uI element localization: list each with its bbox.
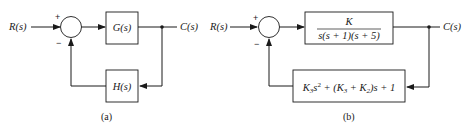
- output-label-b: C(s): [443, 21, 462, 33]
- input-label-a: R(s): [8, 21, 27, 33]
- fb-middle-plus: + K: [347, 82, 367, 93]
- fb-tail: )s + 1: [369, 82, 395, 94]
- fb-middle: + (K: [321, 82, 345, 94]
- summing-junction-a: [61, 17, 82, 38]
- input-label-b: R(s): [209, 21, 228, 33]
- caption-a: (a): [101, 111, 112, 123]
- minus-sign-a: −: [56, 38, 61, 48]
- minus-sign-b: −: [254, 39, 259, 49]
- feedback-block-label-a: H(s): [112, 81, 132, 93]
- feedback-path-right-b: [407, 27, 429, 87]
- plus-sign-b: +: [253, 13, 258, 23]
- feedback-path-left-b: [269, 39, 293, 86]
- forward-block-label-a: G(s): [113, 22, 132, 34]
- plus-sign-a: +: [55, 12, 60, 22]
- forward-numerator-b: K: [344, 16, 353, 27]
- output-label-a: C(s): [180, 21, 199, 33]
- feedback-block-label-b: K3s2 + (K3 + K2)s + 1: [302, 81, 395, 95]
- forward-denominator-b: s(s + 1)(s + 5): [318, 30, 380, 42]
- caption-b: (b): [343, 111, 355, 123]
- feedback-path-right-a: [140, 27, 162, 86]
- diagram-a: R(s) + − G(s) C(s) H(s) (a): [8, 12, 199, 123]
- feedback-path-left-a: [71, 39, 106, 86]
- summing-junction-b: [259, 17, 280, 38]
- diagram-b: R(s) + − K s(s + 1)(s + 5) C(s) K3s2 + (…: [209, 12, 462, 123]
